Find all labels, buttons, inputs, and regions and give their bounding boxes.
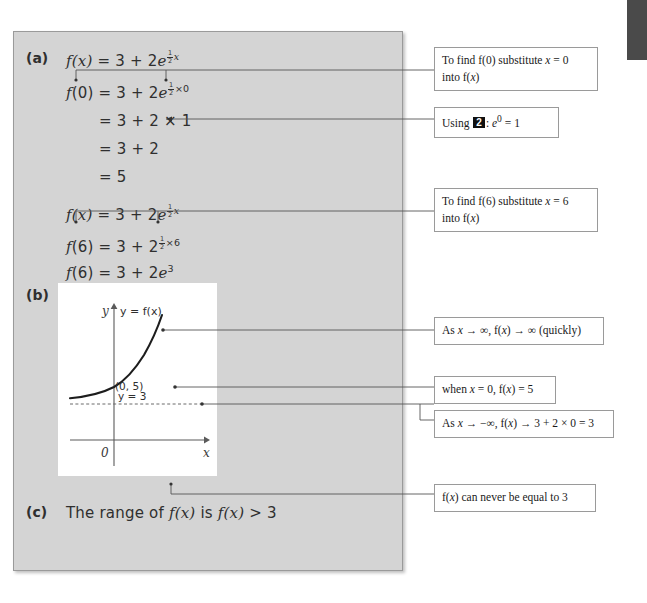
callout-find-f0-line2: into f(x) <box>442 71 479 83</box>
y-intercept-label: (0, 5) <box>115 380 143 392</box>
part-b-label: (b) <box>26 287 49 303</box>
callout-x-to-infinity: As x → ∞, f(x) → ∞ (quickly) <box>434 317 604 345</box>
callout-find-f6: To find f(6) substitute x = 6 into f(x) <box>434 188 598 232</box>
leader-neg-infinity-elbow <box>420 404 434 420</box>
callout-using-prefix: Using <box>442 117 469 129</box>
callout-never-equal-3: f(x) can never be equal to 3 <box>434 484 596 512</box>
callout-find-f0-line1: To find f(0) substitute x = 0 <box>442 54 568 66</box>
part-c-statement: The range of f(x) is f(x) > 3 <box>66 504 277 522</box>
x-axis-arrow <box>204 437 210 444</box>
equation-line-5: = 5 <box>99 168 126 186</box>
y-axis-label: y <box>101 304 109 318</box>
callout-find-f6-line2: into f(x) <box>442 212 479 224</box>
equation-line-1: f(x) = 3 + 2e12x <box>66 50 179 70</box>
origin-label: 0 <box>101 446 109 460</box>
part-a-label: (a) <box>26 50 48 66</box>
callout-using-rule-2: Using 2: e0 = 1 <box>434 107 559 138</box>
equation-line-6: f(x) = 3 + 2e12x <box>66 204 179 224</box>
y-axis-arrow <box>111 303 118 309</box>
reference-badge-2: 2 <box>473 117 485 128</box>
page-edge-tab <box>627 0 647 60</box>
part-c-label: (c) <box>26 504 47 520</box>
equation-line-4: = 3 + 2 <box>99 140 159 158</box>
equation-line-8: f(6) = 3 + 2e3 <box>66 264 174 282</box>
callout-when-x-zero: when x = 0, f(x) = 5 <box>434 376 556 404</box>
textbook-page: (a) f(x) = 3 + 2e12x f(0) = 3 + 2e12×0 =… <box>0 0 647 603</box>
graph-card: y x 0 y = f(x) y = 3 (0, 5) <box>58 283 217 476</box>
callout-find-f0: To find f(0) substitute x = 0 into f(x) <box>434 47 598 91</box>
callout-x-to-neg-infinity: As x → −∞, f(x) → 3 + 2 × 0 = 3 <box>434 410 614 438</box>
curve-label: y = f(x) <box>120 305 162 318</box>
equation-line-7: f(6) = 3 + 212×6 <box>66 236 180 256</box>
x-axis-label: x <box>203 446 210 460</box>
equation-line-3: = 3 + 2 × 1 <box>99 112 191 130</box>
callout-using-suffix: : e0 = 1 <box>486 117 520 129</box>
exponential-graph: y x 0 y = f(x) y = 3 (0, 5) <box>58 283 217 476</box>
callout-find-f6-line1: To find f(6) substitute x = 6 <box>442 195 568 207</box>
equation-line-2: f(0) = 3 + 2e12×0 <box>66 82 189 102</box>
